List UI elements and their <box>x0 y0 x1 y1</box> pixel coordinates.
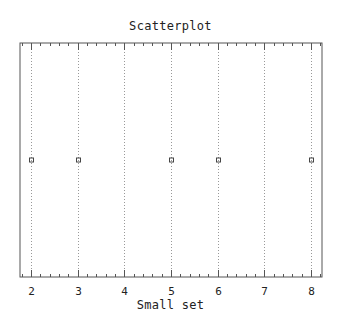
x-tick-label: 8 <box>308 285 315 298</box>
x-tick-label: 2 <box>28 285 35 298</box>
scatter-plot: 2345678 <box>0 0 341 321</box>
x-axis-label: Small set <box>0 298 341 312</box>
x-tick-label: 5 <box>168 285 175 298</box>
x-tick-labels: 2345678 <box>28 285 315 298</box>
x-tick-label: 3 <box>75 285 82 298</box>
grid-lines <box>32 43 312 277</box>
x-tick-label: 4 <box>121 285 128 298</box>
x-tick-label: 6 <box>215 285 222 298</box>
x-tick-label: 7 <box>261 285 268 298</box>
